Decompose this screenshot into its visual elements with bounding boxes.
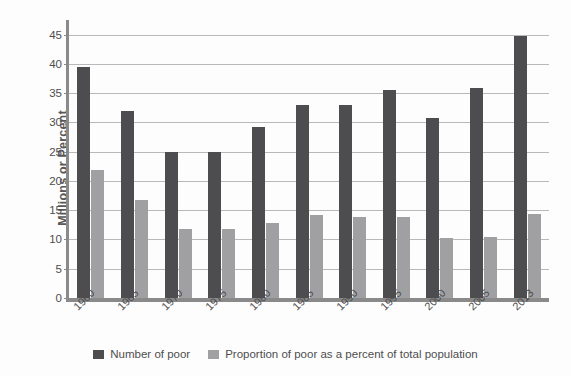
legend-item-1[interactable]: Number of poor (93, 348, 190, 360)
x-tick-cell: 1990 (329, 302, 373, 342)
bar-2000-series-1 (426, 118, 439, 298)
chart-legend: Number of poorProportion of poor as a pe… (0, 348, 571, 360)
bar-2013-series-1 (514, 36, 527, 298)
x-tick-cell: 1980 (242, 302, 286, 342)
x-tick-cell: 1995 (373, 302, 417, 342)
bar-group-1995 (374, 20, 418, 298)
bar-group-1970 (156, 20, 200, 298)
legend-item-2[interactable]: Proportion of poor as a percent of total… (208, 348, 478, 360)
bar-2005-series-1 (470, 88, 483, 298)
bar-1995-series-2 (397, 217, 410, 298)
plot-area (66, 20, 549, 298)
y-tick-label: 20 (10, 175, 62, 187)
y-tick-label: 25 (10, 146, 62, 158)
x-tick-cell: 2005 (461, 302, 505, 342)
bar-1985-series-1 (296, 105, 309, 298)
bar-group-1960 (69, 20, 113, 298)
y-tick-label: 40 (10, 58, 62, 70)
x-axis-tick-labels: 1960196519701975198019851990199520002005… (66, 302, 549, 342)
bar-1985-series-2 (310, 215, 323, 298)
bar-1965-series-1 (121, 111, 134, 298)
bar-1980-series-2 (266, 223, 279, 298)
y-axis-tick-labels: 051015202530354045 (0, 20, 62, 298)
bar-1980-series-1 (252, 127, 265, 298)
bar-group-1980 (244, 20, 288, 298)
legend-item-label: Proportion of poor as a percent of total… (225, 348, 478, 360)
bar-groups (69, 20, 549, 298)
y-tick-label: 45 (10, 29, 62, 41)
bar-1990-series-2 (353, 217, 366, 298)
bar-1975-series-2 (222, 229, 235, 298)
bar-1975-series-1 (208, 152, 221, 298)
bar-group-1965 (113, 20, 157, 298)
y-tick-label: 0 (10, 292, 62, 304)
bar-1960-series-2 (91, 170, 104, 298)
bar-1960-series-1 (77, 67, 90, 298)
y-tick-label: 10 (10, 233, 62, 245)
x-tick-cell: 2000 (417, 302, 461, 342)
legend-item-label: Number of poor (110, 348, 190, 360)
light-swatch-icon (208, 350, 219, 359)
y-tick-label: 5 (10, 263, 62, 275)
x-tick-cell: 2013 (505, 302, 549, 342)
bar-group-1990 (331, 20, 375, 298)
y-tick-label: 35 (10, 87, 62, 99)
bar-1995-series-1 (383, 90, 396, 298)
bar-group-1975 (200, 20, 244, 298)
bar-group-2000 (418, 20, 462, 298)
bar-group-2005 (462, 20, 506, 298)
x-tick-cell: 1975 (198, 302, 242, 342)
x-tick-cell: 1965 (110, 302, 154, 342)
x-tick-cell: 1970 (154, 302, 198, 342)
bar-chart: Millions or Percent 051015202530354045 1… (0, 0, 571, 376)
dark-swatch-icon (93, 350, 104, 359)
bar-group-1985 (287, 20, 331, 298)
bar-1965-series-2 (135, 200, 148, 298)
y-tick-label: 30 (10, 116, 62, 128)
x-tick-cell: 1960 (66, 302, 110, 342)
bar-1970-series-1 (165, 152, 178, 298)
bar-1970-series-2 (179, 229, 192, 298)
bar-group-2013 (505, 20, 549, 298)
bar-1990-series-1 (339, 105, 352, 298)
x-tick-cell: 1985 (286, 302, 330, 342)
bar-2013-series-2 (528, 214, 541, 298)
y-tick-label: 15 (10, 204, 62, 216)
